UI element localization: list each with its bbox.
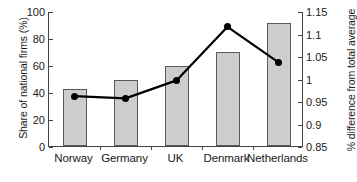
line-marker: [173, 77, 180, 84]
category-label-uk: UK: [168, 152, 184, 164]
category-label-norway: Norway: [54, 152, 92, 164]
line-path: [75, 27, 279, 99]
left-tick-label: 80: [33, 34, 45, 45]
left-tick-label: 100: [27, 7, 45, 18]
line-marker: [122, 95, 129, 102]
right-tick-label: 1.05: [306, 52, 327, 63]
right-tick-label: 1: [306, 74, 312, 85]
right-tick-label: 0.9: [306, 119, 321, 130]
left-tick-mark: [49, 147, 53, 148]
right-tick-mark: [298, 147, 302, 148]
right-tick-label: 0.85: [306, 142, 327, 153]
line-marker: [275, 59, 282, 66]
left-tick-label: 40: [33, 88, 45, 99]
right-tick-label: 0.95: [306, 97, 327, 108]
left-tick-label: 0: [39, 142, 45, 153]
x-tick-mark: [202, 146, 203, 150]
plot-area: 020406080100 0.850.90.9511.051.11.15: [48, 12, 303, 147]
left-tick-label: 60: [33, 61, 45, 72]
x-tick-mark: [151, 146, 152, 150]
line-marker: [71, 93, 78, 100]
right-axis-title: % difference from total average: [345, 0, 357, 160]
category-label-netherlands: Netherlands: [247, 152, 308, 164]
x-tick-mark: [100, 146, 101, 150]
x-tick-mark: [253, 146, 254, 150]
category-label-denmark: Denmark: [204, 152, 250, 164]
left-axis-title: Share of national firms (%): [17, 3, 29, 153]
left-tick-label: 20: [33, 115, 45, 126]
category-label-germany: Germany: [101, 152, 148, 164]
right-tick-label: 1.15: [306, 7, 327, 18]
right-tick-label: 1.1: [306, 29, 321, 40]
chart-figure: Share of national firms (%) % difference…: [0, 0, 357, 182]
